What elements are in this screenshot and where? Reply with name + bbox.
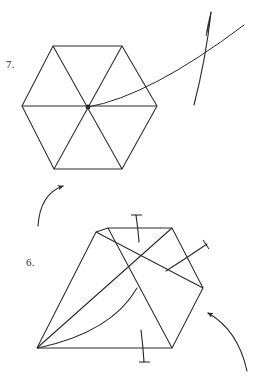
figure-sheet: 7. 6.: [0, 0, 259, 377]
figure-6-diagonal-3: [96, 232, 203, 288]
rotation-arrow-right-icon: [208, 313, 247, 371]
figure-7-label: 7.: [6, 58, 15, 70]
figure-6-diagonal-2: [37, 228, 172, 348]
figure-6-diagonal-1: [108, 228, 172, 348]
rotation-arrow-left-icon: [38, 186, 63, 226]
figure-6-label: 6.: [26, 256, 35, 268]
figure-6-bottom-needle-tick: [141, 330, 144, 362]
geometry-drawing-canvas: [0, 0, 259, 377]
figure-6-hexagon: [37, 215, 209, 362]
figure-6-fold-curve: [38, 288, 137, 348]
figure-6-hexagon-outline: [37, 228, 203, 348]
figure-6-side-needle-cap: [203, 240, 209, 249]
figure-7-hexagon: [22, 12, 244, 169]
figure-6-side-needle-tick: [166, 244, 207, 271]
